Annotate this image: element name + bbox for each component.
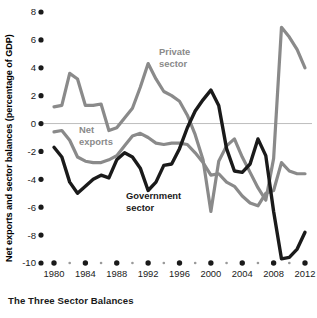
y-tick-dot xyxy=(38,9,43,14)
x-tick-dot-minor xyxy=(100,262,103,265)
three-sector-balances-chart: Net exports and sector balances (percent… xyxy=(0,0,317,280)
x-tick-label: 1984 xyxy=(75,268,96,279)
x-axis-ticks: 198019841988199219962000200420082012 xyxy=(44,260,316,279)
y-tick-label: 0 xyxy=(31,118,36,129)
x-tick-dot-major xyxy=(240,260,245,265)
y-axis-title: Net exports and sector balances (percent… xyxy=(4,34,14,262)
government-sector-label-line1: Government xyxy=(126,190,181,201)
y-tick-label: -2 xyxy=(27,146,36,157)
x-tick-dot-minor xyxy=(288,262,291,265)
net-exports-label-line2: exports xyxy=(79,136,113,147)
y-tick-label: 2 xyxy=(31,90,36,101)
x-tick-dot-minor xyxy=(194,262,197,265)
annotation-private-sector: Private sector xyxy=(159,46,190,69)
x-tick-dot-major xyxy=(208,260,213,265)
x-tick-label: 1988 xyxy=(106,268,127,279)
x-tick-dot-minor xyxy=(257,262,260,265)
y-tick-dot xyxy=(38,65,43,70)
x-tick-dot-major xyxy=(83,260,88,265)
x-tick-label: 2004 xyxy=(232,268,253,279)
y-axis-ticks: -10-8-6-4-202468 xyxy=(22,6,43,268)
y-tick-dot xyxy=(38,177,43,182)
y-tick-label: -4 xyxy=(27,174,36,185)
x-tick-label: 1992 xyxy=(138,268,159,279)
y-tick-label: -10 xyxy=(22,257,36,268)
private-sector-label-line1: Private xyxy=(159,46,190,57)
x-tick-label: 2008 xyxy=(263,268,284,279)
figure-caption: The Three Sector Balances xyxy=(8,295,134,306)
government-sector-label-line2: sector xyxy=(126,202,154,213)
y-tick-dot xyxy=(38,37,43,42)
y-tick-dot xyxy=(38,149,43,154)
x-tick-label: 1996 xyxy=(169,268,190,279)
y-tick-dot xyxy=(38,260,43,265)
private-sector-label-line2: sector xyxy=(159,58,187,69)
y-tick-label: 4 xyxy=(31,62,37,73)
y-tick-dot xyxy=(38,121,43,126)
x-tick-dot-minor xyxy=(68,262,71,265)
x-tick-dot-major xyxy=(177,260,182,265)
x-tick-dot-major xyxy=(271,260,276,265)
y-tick-label: -6 xyxy=(27,202,36,213)
x-tick-dot-major xyxy=(302,260,307,265)
x-tick-label: 2000 xyxy=(200,268,221,279)
x-tick-dot-major xyxy=(114,260,119,265)
x-tick-label: 2012 xyxy=(295,268,316,279)
x-tick-dot-minor xyxy=(163,262,166,265)
y-axis-title-text: Net exports and sector balances (percent… xyxy=(4,34,14,262)
y-tick-dot xyxy=(38,205,43,210)
x-tick-dot-major xyxy=(51,260,56,265)
series-line-government-sector xyxy=(54,90,305,259)
y-tick-dot xyxy=(38,233,43,238)
x-tick-dot-minor xyxy=(225,262,228,265)
x-tick-label: 1980 xyxy=(44,268,65,279)
annotation-government-sector: Government sector xyxy=(126,190,181,213)
x-tick-dot-major xyxy=(145,260,150,265)
net-exports-label-line1: Net xyxy=(79,124,94,135)
y-tick-label: 6 xyxy=(31,34,36,45)
y-tick-label: 8 xyxy=(31,6,36,17)
x-tick-dot-minor xyxy=(131,262,134,265)
figure-container: Net exports and sector balances (percent… xyxy=(0,0,317,318)
y-tick-dot xyxy=(38,93,43,98)
y-tick-label: -8 xyxy=(27,230,36,241)
